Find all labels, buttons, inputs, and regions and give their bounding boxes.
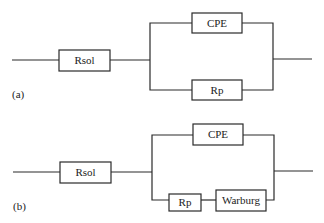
circuit-b: Rsol CPE Rp Warburg (b)	[13, 124, 313, 213]
rsol-label: Rsol	[75, 166, 95, 178]
warburg-label: Warburg	[222, 194, 261, 206]
rsol-label: Rsol	[74, 54, 94, 66]
panel-label-a: (a)	[12, 88, 25, 101]
panel-label-b: (b)	[13, 200, 26, 213]
parallel-left-wire	[152, 135, 193, 200]
cpe-label: CPE	[208, 128, 228, 140]
parallel-right-wire	[242, 23, 273, 90]
parallel-left-wire	[150, 23, 192, 90]
cpe-label: CPE	[207, 17, 227, 29]
rp-label: Rp	[179, 196, 192, 208]
equivalent-circuit-diagram: Rsol CPE Rp (a) Rsol CPE Rp Warburg (b)	[0, 0, 324, 223]
circuit-a: Rsol CPE Rp (a)	[12, 13, 312, 101]
rp-label: Rp	[211, 84, 224, 96]
